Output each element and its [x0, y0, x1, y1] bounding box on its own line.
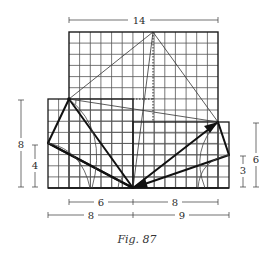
label-left-4: 4 [32, 160, 38, 171]
figure-caption: Fig. 87 [116, 233, 156, 246]
label-left-8: 8 [18, 139, 24, 150]
label-bottom-8b: 8 [88, 210, 94, 221]
right-grid-square [133, 122, 229, 188]
dimension-bottom-row1 [69, 199, 218, 205]
label-bottom-6: 6 [98, 197, 104, 208]
label-right-6: 6 [253, 154, 259, 165]
label-right-3: 3 [240, 165, 246, 176]
label-top-14: 14 [133, 15, 146, 26]
label-bottom-9: 9 [179, 210, 185, 221]
left-grid-square [48, 99, 133, 188]
vertex-dot [67, 97, 71, 101]
figure-87-diagram: 14 8 4 6 3 6 8 [0, 0, 274, 260]
label-bottom-8a: 8 [172, 197, 178, 208]
dimension-bottom-row2 [48, 212, 229, 218]
